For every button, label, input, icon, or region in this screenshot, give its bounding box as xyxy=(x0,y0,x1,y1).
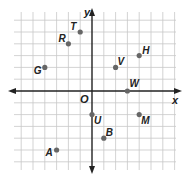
origin-label: O xyxy=(80,93,89,105)
point-u: U xyxy=(89,112,102,126)
x-axis-label: x xyxy=(171,94,179,106)
point-r: R xyxy=(58,33,71,47)
point-label: W xyxy=(129,78,140,89)
point-dot xyxy=(78,29,83,34)
point-label: R xyxy=(58,33,66,44)
y-axis-down-arrow-icon xyxy=(89,166,95,174)
point-a: A xyxy=(45,147,60,158)
point-label: T xyxy=(70,21,77,32)
point-t: T xyxy=(70,21,83,35)
point-v: V xyxy=(113,56,126,70)
x-axis-left-arrow-icon xyxy=(8,88,16,94)
point-m: M xyxy=(137,112,151,126)
axes: x y O xyxy=(8,6,182,174)
point-dot xyxy=(137,53,142,58)
point-label: H xyxy=(142,45,150,56)
y-axis-label: y xyxy=(83,6,91,18)
point-dot xyxy=(54,147,59,152)
point-label: M xyxy=(141,115,150,126)
point-dot xyxy=(125,88,130,93)
point-label: G xyxy=(34,65,42,76)
point-b: B xyxy=(101,127,113,141)
point-label: B xyxy=(106,127,113,138)
point-label: V xyxy=(118,56,126,67)
coordinate-plane: x y O TRGVHWUBMA xyxy=(0,0,186,178)
point-h: H xyxy=(137,45,151,59)
point-dot xyxy=(42,65,47,70)
point-label: U xyxy=(94,115,102,126)
point-label: A xyxy=(45,147,53,158)
point-dot xyxy=(66,41,71,46)
point-g: G xyxy=(34,65,48,77)
